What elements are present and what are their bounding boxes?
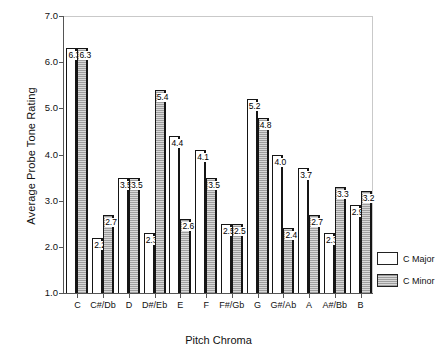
legend-swatch-major	[377, 252, 398, 265]
bar-value-label: 2.4	[285, 231, 297, 240]
bar-group: 2.93.2	[350, 16, 372, 293]
bar-value-label: 6.3	[79, 51, 91, 60]
legend-swatch-minor	[377, 274, 398, 287]
x-axis-title: Pitch Chroma	[63, 334, 374, 346]
bar-minor: 2.5	[232, 224, 243, 293]
x-axis-tick-label: A	[306, 300, 312, 310]
bar-group: 2.22.7	[92, 16, 114, 293]
x-axis-tick-mark	[129, 293, 130, 298]
x-axis-tick-mark	[155, 293, 156, 298]
x-axis-tick-mark	[77, 293, 78, 298]
bar-minor: 2.6	[180, 219, 191, 293]
bar-value-label: 3.5	[208, 181, 220, 190]
y-axis-tick-label: 1.0	[18, 287, 58, 298]
bar-major: 4.1	[195, 150, 206, 293]
bar-value-label: 5.2	[249, 102, 261, 111]
x-axis-tick-mark	[258, 293, 259, 298]
bar-value-label: 3.5	[131, 181, 143, 190]
bar-value-label: 2.5	[234, 227, 246, 236]
y-axis-tick-label: 4.0	[18, 149, 58, 160]
x-axis-line	[63, 293, 373, 294]
y-axis-tick-label: 3.0	[18, 195, 58, 206]
x-axis-tick-mark	[309, 293, 310, 298]
x-axis-tick-label: C	[74, 300, 81, 310]
bar-major: 3.5	[118, 178, 129, 293]
bar-major: 2.3	[144, 233, 155, 293]
x-axis-tick-labels: CC#/DbDD#/EbEFF#/GbGG#/AbAA#/BbB	[63, 300, 374, 316]
y-axis-tick-label: 6.0	[18, 56, 58, 67]
bar-major: 4.4	[169, 136, 180, 293]
x-axis-tick-label: B	[358, 300, 364, 310]
bar-value-label: 4.4	[171, 139, 183, 148]
x-axis-tick-mark	[361, 293, 362, 298]
y-axis-tick-label: 2.0	[18, 241, 58, 252]
bar-major: 3.7	[298, 168, 309, 293]
x-axis-tick-label: D	[126, 300, 133, 310]
x-axis-tick-label: F	[203, 300, 209, 310]
bar-value-label: 2.6	[182, 222, 194, 231]
bar-major: 6.3	[66, 48, 77, 293]
x-axis-tick-label: G	[254, 300, 261, 310]
bar-series-container: 6.36.32.22.73.53.52.35.44.42.64.13.52.52…	[64, 16, 373, 293]
bar-group: 5.24.8	[247, 16, 269, 293]
bar-minor: 3.5	[206, 178, 217, 293]
x-axis-tick-mark	[283, 293, 284, 298]
x-axis-tick-mark	[335, 293, 336, 298]
bar-group: 2.52.5	[221, 16, 243, 293]
bar-minor: 3.2	[361, 191, 372, 293]
legend-label: C Minor	[403, 276, 435, 286]
chart-figure: Average Probe Tone Rating 1.02.03.04.05.…	[0, 0, 440, 361]
x-axis-tick-label: D#/Eb	[142, 300, 167, 310]
bar-minor: 2.7	[103, 215, 114, 293]
bar-minor: 5.4	[155, 90, 166, 293]
bar-group: 4.02.4	[272, 16, 294, 293]
bar-group: 4.42.6	[169, 16, 191, 293]
x-axis-tick-mark	[103, 293, 104, 298]
x-axis-tick-mark	[232, 293, 233, 298]
bar-major: 2.2	[92, 238, 103, 293]
x-axis-tick-mark	[180, 293, 181, 298]
x-axis-tick-label: E	[177, 300, 183, 310]
bar-value-label: 3.7	[300, 171, 312, 180]
bar-major: 2.9	[350, 205, 361, 293]
y-axis-tick-mark	[59, 293, 64, 294]
x-axis-tick-label: A#/Bb	[323, 300, 348, 310]
y-axis-tick-label: 7.0	[18, 10, 58, 21]
legend-item: C Major	[377, 252, 435, 265]
bar-value-label: 3.2	[363, 194, 375, 203]
bar-value-label: 3.3	[337, 190, 349, 199]
bar-minor: 6.3	[77, 48, 88, 293]
bar-minor: 2.4	[283, 228, 294, 293]
bar-group: 6.36.3	[66, 16, 88, 293]
bar-value-label: 4.1	[197, 153, 209, 162]
bar-minor: 4.8	[258, 118, 269, 293]
bar-value-label: 2.7	[105, 218, 117, 227]
legend-item: C Minor	[377, 274, 435, 287]
x-axis-tick-label: G#/Ab	[271, 300, 297, 310]
bar-group: 2.35.4	[144, 16, 166, 293]
bar-minor: 3.3	[335, 187, 346, 293]
bar-value-label: 4.8	[260, 121, 272, 130]
bar-major: 2.5	[221, 224, 232, 293]
bar-major: 4.0	[272, 155, 283, 294]
bar-group: 3.72.7	[298, 16, 320, 293]
bar-group: 4.13.5	[195, 16, 217, 293]
bar-minor: 2.7	[309, 215, 320, 293]
x-axis-tick-label: F#/Gb	[219, 300, 244, 310]
bar-group: 2.33.3	[324, 16, 346, 293]
bar-value-label: 4.0	[274, 158, 286, 167]
bar-major: 5.2	[247, 99, 258, 293]
bar-group: 3.53.5	[118, 16, 140, 293]
x-axis-tick-label: C#/Db	[90, 300, 116, 310]
legend-label: C Major	[403, 254, 435, 264]
bar-major: 2.3	[324, 233, 335, 293]
y-axis-tick-label: 5.0	[18, 102, 58, 113]
bar-minor: 3.5	[129, 178, 140, 293]
bar-value-label: 5.4	[157, 93, 169, 102]
chart-legend: C MajorC Minor	[377, 252, 435, 296]
x-axis-tick-mark	[206, 293, 207, 298]
bar-value-label: 2.7	[311, 218, 323, 227]
